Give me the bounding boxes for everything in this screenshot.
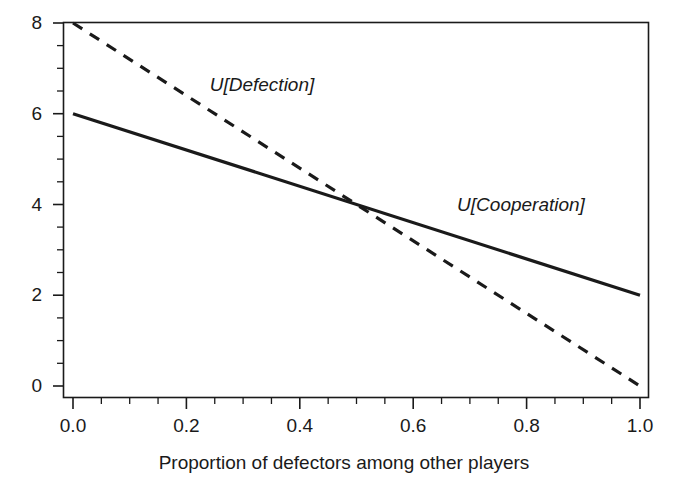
x-tick-label-0-8: 0.8	[513, 415, 539, 437]
series-annotation-cooperation: U[Cooperation]	[457, 194, 585, 216]
series-annotation-defection: U[Defection]	[210, 74, 315, 96]
y-axis-major-ticks	[53, 23, 63, 386]
chart-figure: 0 2 4 6 8 0.0 0.2 0.4 0.6 0.8 1.0 U[Defe…	[0, 0, 688, 496]
x-axis-title: Proportion of defectors among other play…	[0, 452, 688, 474]
plot-canvas	[0, 0, 688, 496]
x-tick-label-0-4: 0.4	[287, 415, 313, 437]
y-tick-label-4: 4	[14, 194, 42, 216]
x-tick-label-1-0: 1.0	[627, 415, 653, 437]
y-tick-label-2: 2	[14, 284, 42, 306]
x-tick-label-0-6: 0.6	[400, 415, 426, 437]
y-tick-label-6: 6	[14, 103, 42, 125]
x-tick-label-0: 0.0	[60, 415, 86, 437]
y-tick-label-8: 8	[14, 12, 42, 34]
y-tick-label-0: 0	[14, 375, 42, 397]
x-tick-label-0-2: 0.2	[173, 415, 199, 437]
